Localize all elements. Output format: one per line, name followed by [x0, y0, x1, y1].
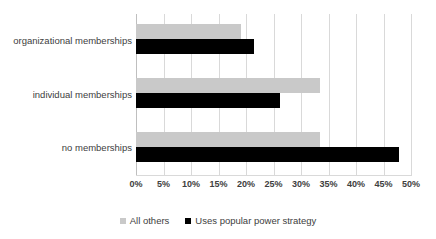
- legend-label-popular-power-strategy: Uses popular power strategy: [195, 215, 316, 226]
- x-tick-label-2: 10%: [182, 179, 200, 189]
- x-tick-label-8: 40%: [347, 179, 365, 189]
- bar-group-2: [136, 132, 411, 165]
- x-tick-label-3: 15%: [209, 179, 227, 189]
- bar-group-1: [136, 78, 411, 111]
- bar-0-series-1: [136, 39, 254, 54]
- category-label-1: individual memberships: [4, 89, 132, 100]
- legend-label-all-others: All others: [130, 215, 170, 226]
- x-tick-label-1: 5%: [157, 179, 170, 189]
- x-tick-label-9: 45%: [374, 179, 392, 189]
- x-axis-line: [136, 175, 412, 176]
- bar-chart: organizational memberships individual me…: [0, 0, 436, 239]
- x-tick-label-4: 20%: [237, 179, 255, 189]
- bar-2-series-1: [136, 147, 399, 162]
- category-label-2: no memberships: [4, 142, 132, 153]
- bar-1-series-1: [136, 93, 280, 108]
- category-axis-labels: organizational memberships individual me…: [0, 14, 132, 175]
- chart-legend: All others Uses popular power strategy: [0, 215, 436, 226]
- gridline-50pct: [411, 14, 412, 175]
- bar-2-series-0: [136, 132, 320, 147]
- category-label-0: organizational memberships: [4, 35, 132, 46]
- x-axis-tick-labels: 0%5%10%15%20%25%30%35%40%45%50%: [136, 179, 411, 193]
- plot-area: [136, 14, 411, 175]
- x-tick-label-5: 25%: [264, 179, 282, 189]
- bar-1-series-0: [136, 78, 320, 93]
- legend-item-all-others: All others: [120, 215, 170, 226]
- x-tick-label-0: 0%: [129, 179, 142, 189]
- bar-group-0: [136, 24, 411, 57]
- legend-item-popular-power-strategy: Uses popular power strategy: [185, 215, 316, 226]
- x-tick-label-7: 35%: [319, 179, 337, 189]
- bar-0-series-0: [136, 24, 241, 39]
- legend-swatch-popular-power-strategy: [185, 218, 191, 224]
- x-tick-label-6: 30%: [292, 179, 310, 189]
- x-tick-label-10: 50%: [402, 179, 420, 189]
- legend-swatch-all-others: [120, 218, 126, 224]
